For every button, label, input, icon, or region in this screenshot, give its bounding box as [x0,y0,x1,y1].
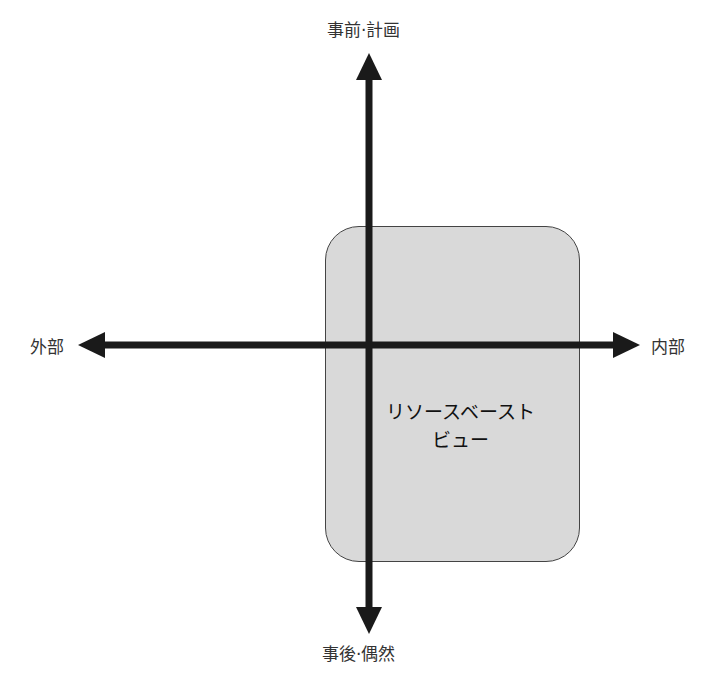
axes [0,0,713,677]
region-label-line1: リソースベースト [370,398,550,426]
arrow-down-icon [356,607,382,634]
arrow-up-icon [356,53,382,80]
arrow-right-icon [613,332,640,358]
arrow-left-icon [78,332,105,358]
axis-label-bottom: 事後·偶然 [322,640,395,665]
region-label: リソースベースト ビュー [370,398,550,454]
axis-label-right: 内部 [651,333,685,358]
axis-label-left: 外部 [30,333,64,358]
region-label-line2: ビュー [370,426,550,454]
axis-label-top: 事前·計画 [327,16,400,41]
